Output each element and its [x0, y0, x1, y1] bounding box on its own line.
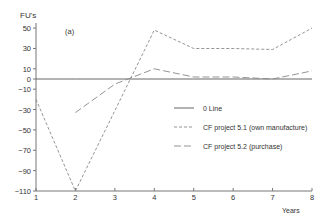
- y-tick-label: 0: [27, 75, 31, 84]
- y-tick-label: −90: [18, 167, 31, 176]
- x-tick-label: 8: [310, 193, 314, 202]
- x-tick-label: 2: [73, 193, 77, 202]
- x-axis-label: Years: [282, 207, 300, 214]
- series-line: [75, 69, 312, 113]
- series-line: [36, 28, 312, 191]
- y-tick-label: −10: [18, 85, 31, 94]
- x-tick-label: 5: [192, 193, 196, 202]
- x-tick-label: 4: [152, 193, 156, 202]
- line-chart: FU's (a) Years 5030100−10−30−50−70−90−11…: [0, 0, 332, 219]
- legend-label: 0 Line: [203, 105, 222, 112]
- y-tick-label: −70: [18, 146, 31, 155]
- x-tick-label: 3: [113, 193, 117, 202]
- y-tick-label: −110: [15, 187, 31, 196]
- legend-label: CF project 5.1 (own manufacture): [203, 124, 307, 132]
- y-tick-label: 30: [23, 44, 31, 53]
- y-axis-label: FU's: [20, 11, 36, 20]
- x-tick-label: 6: [231, 193, 235, 202]
- series-lines: [36, 28, 312, 191]
- x-tick-label: 1: [34, 193, 38, 202]
- legend-label: CF project 5.2 (purchase): [203, 143, 282, 151]
- chart-canvas: FU's (a) Years 5030100−10−30−50−70−90−11…: [0, 0, 332, 219]
- y-tick-label: 10: [23, 65, 31, 74]
- y-tick-label: −30: [18, 106, 31, 115]
- y-tick-label: 50: [23, 24, 31, 33]
- y-tick-label: −50: [18, 126, 31, 135]
- x-tick-label: 7: [270, 193, 274, 202]
- legend: 0 LineCF project 5.1 (own manufacture)CF…: [174, 105, 307, 151]
- panel-label: (a): [65, 27, 75, 36]
